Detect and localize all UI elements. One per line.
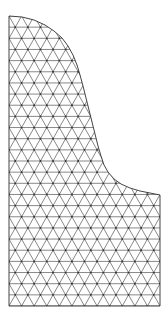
mesh-node <box>147 238 149 240</box>
mesh-node <box>121 60 123 62</box>
mesh-node <box>65 294 67 296</box>
mesh-node <box>84 15 86 17</box>
mesh-edge <box>135 16 167 306</box>
mesh-node <box>71 60 73 62</box>
mesh-node <box>71 194 73 196</box>
mesh-node <box>159 127 161 129</box>
mesh-node <box>140 26 142 28</box>
mesh-node <box>165 49 167 51</box>
mesh-node <box>52 205 54 207</box>
mesh-node <box>46 149 48 151</box>
mesh-node <box>90 49 92 51</box>
mesh-edge <box>160 16 167 306</box>
mesh-node <box>90 205 92 207</box>
mesh-node <box>84 82 86 84</box>
mesh-edges <box>0 16 167 306</box>
mesh-node <box>33 149 35 151</box>
mesh-node <box>2 160 4 162</box>
mesh-node <box>71 37 73 39</box>
mesh-node <box>153 160 155 162</box>
mesh-node <box>153 272 155 274</box>
mesh-node <box>52 115 54 117</box>
mesh-node <box>128 138 130 140</box>
mesh-node <box>159 37 161 39</box>
mesh-node <box>159 171 161 173</box>
mesh-node <box>96 216 98 218</box>
mesh-node <box>84 149 86 151</box>
mesh-node <box>46 238 48 240</box>
mesh-node <box>90 227 92 229</box>
mesh-node <box>65 71 67 73</box>
mesh-node <box>52 26 54 28</box>
mesh-node <box>27 93 29 95</box>
mesh-node <box>40 138 42 140</box>
mesh-node <box>115 49 117 51</box>
mesh-node <box>77 249 79 251</box>
mesh-node <box>109 15 111 17</box>
mesh-node <box>46 171 48 173</box>
mesh-node <box>77 138 79 140</box>
mesh-node <box>71 171 73 173</box>
mesh-node <box>128 205 130 207</box>
mesh-node <box>153 93 155 95</box>
mesh-edge <box>0 16 9 306</box>
mesh-node <box>46 37 48 39</box>
mesh-node <box>159 104 161 106</box>
mesh-node <box>96 149 98 151</box>
mesh-node <box>90 71 92 73</box>
mesh-node <box>2 71 4 73</box>
mesh-node <box>128 115 130 117</box>
mesh-node <box>121 283 123 285</box>
mesh-node <box>33 238 35 240</box>
mesh-node <box>153 26 155 28</box>
mesh-node <box>134 149 136 151</box>
mesh-node <box>77 182 79 184</box>
mesh-node <box>21 37 23 39</box>
mesh-node <box>2 182 4 184</box>
mesh-node <box>21 216 23 218</box>
mesh-node <box>96 127 98 129</box>
mesh-node <box>14 205 16 207</box>
mesh-node <box>40 93 42 95</box>
mesh-node <box>71 216 73 218</box>
mesh-node <box>21 283 23 285</box>
mesh-node <box>21 194 23 196</box>
mesh-node <box>27 294 29 296</box>
mesh-edge <box>147 16 167 306</box>
mesh-node <box>102 71 104 73</box>
mesh-edge <box>110 16 167 306</box>
mesh-node <box>58 127 60 129</box>
mesh-node <box>65 160 67 162</box>
mesh-node <box>134 82 136 84</box>
mesh-node <box>33 171 35 173</box>
mesh-node <box>128 71 130 73</box>
mesh-node <box>147 82 149 84</box>
mesh-node <box>121 15 123 17</box>
mesh-edge <box>97 16 167 306</box>
mesh-node <box>115 294 117 296</box>
mesh-node <box>40 249 42 251</box>
mesh-node <box>165 115 167 117</box>
mesh-node <box>115 138 117 140</box>
mesh-node <box>134 194 136 196</box>
mesh-node <box>109 82 111 84</box>
mesh-node <box>134 37 136 39</box>
mesh-node <box>96 15 98 17</box>
mesh-node <box>109 194 111 196</box>
mesh-node <box>140 138 142 140</box>
mesh-node <box>96 60 98 62</box>
mesh-node <box>115 249 117 251</box>
mesh-node <box>33 216 35 218</box>
mesh-node <box>121 260 123 262</box>
mesh-node <box>58 15 60 17</box>
mesh-node <box>77 49 79 51</box>
mesh-node <box>77 272 79 274</box>
mesh-node <box>84 194 86 196</box>
mesh-node <box>65 49 67 51</box>
mesh-node <box>121 194 123 196</box>
mesh-node <box>128 272 130 274</box>
mesh-node <box>71 260 73 262</box>
mesh-node <box>65 249 67 251</box>
mesh-node <box>147 216 149 218</box>
mesh-node <box>46 15 48 17</box>
